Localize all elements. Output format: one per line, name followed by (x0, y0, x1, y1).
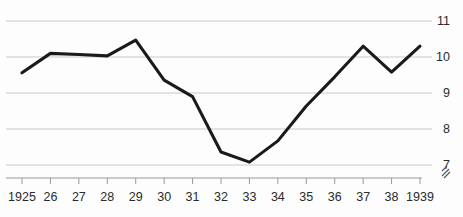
x-tick-label: 33 (242, 190, 256, 204)
y-tick-label: 8 (443, 122, 450, 136)
y-tick-label: 7 (443, 158, 450, 172)
x-axis-tick-labels: 1925262728293031323334353637381939 (8, 190, 434, 204)
x-tick-label: 27 (72, 190, 86, 204)
chart-canvas: 7891011 19252627282930313233343536373819… (0, 0, 463, 217)
y-tick-label: 10 (436, 50, 450, 64)
x-tick-label: 1939 (406, 190, 434, 204)
x-axis (6, 178, 422, 184)
x-tick-label: 38 (385, 190, 399, 204)
y-tick-label: 9 (443, 86, 450, 100)
line-chart: 7891011 19252627282930313233343536373819… (0, 0, 463, 217)
data-series (22, 40, 420, 162)
x-tick-label: 32 (214, 190, 228, 204)
x-tick-label: 26 (43, 190, 57, 204)
x-tick-label: 30 (157, 190, 171, 204)
y-tick-label: 11 (437, 14, 450, 28)
x-tick-label: 31 (186, 190, 200, 204)
x-tick-label: 35 (299, 190, 313, 204)
x-tick-label: 29 (129, 190, 143, 204)
x-tick-label: 37 (356, 190, 370, 204)
y-axis-tick-labels: 7891011 (436, 14, 450, 172)
data-line-series-1 (22, 40, 420, 162)
x-tick-label: 36 (328, 190, 342, 204)
x-tick-label: 28 (100, 190, 114, 204)
x-tick-label: 1925 (8, 190, 36, 204)
x-tick-label: 34 (271, 190, 285, 204)
gridlines (6, 21, 432, 165)
